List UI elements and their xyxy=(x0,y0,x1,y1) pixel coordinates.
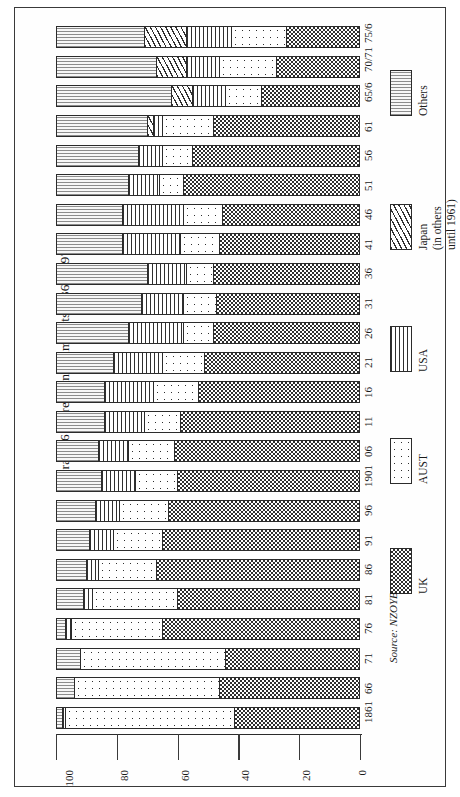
legend-note-line-1: (in others xyxy=(431,199,445,250)
source-note: Source: NZOYB xyxy=(387,592,399,663)
axis-tick-20 xyxy=(299,734,300,760)
bar-segment-aust xyxy=(181,234,220,254)
bar-track xyxy=(56,411,360,433)
bar-track xyxy=(56,145,360,167)
axis-tick-label-80: 80 xyxy=(118,770,130,781)
bar-track xyxy=(56,677,360,699)
legend-label-usa: USA xyxy=(417,349,431,372)
bar-segment-others xyxy=(57,323,129,343)
axis-line xyxy=(56,734,362,735)
bar-segment-others xyxy=(57,146,139,166)
axis-tick-0 xyxy=(360,734,361,760)
bar-track xyxy=(56,618,360,640)
bar-segment-uk xyxy=(163,619,359,639)
bar-segment-uk xyxy=(184,175,359,195)
bar-segment-uk xyxy=(220,678,359,698)
bar-segment-uk xyxy=(235,708,359,728)
legend-label-text: USA xyxy=(417,349,431,372)
bar-row xyxy=(56,233,360,255)
bar-track xyxy=(56,56,360,78)
bar-segment-usa xyxy=(90,530,114,550)
legend-label-text: Others xyxy=(417,85,431,116)
bar-track xyxy=(56,470,360,492)
bar-segment-aust xyxy=(184,294,217,314)
bar-row xyxy=(56,56,360,78)
chart-legend: UKAUSTUSAJapan(in othersuntil 1961)Other… xyxy=(371,8,460,788)
bar-segment-usa xyxy=(102,471,135,491)
bar-segment-uk xyxy=(226,649,359,669)
bar-segment-usa xyxy=(99,441,129,461)
bar-row xyxy=(56,85,360,107)
bar-segment-usa xyxy=(96,501,120,521)
bar-segment-others xyxy=(57,560,87,580)
bar-segment-others xyxy=(57,86,172,106)
bar-segment-others xyxy=(57,353,114,373)
bar-segment-uk xyxy=(217,294,359,314)
bar-segment-uk xyxy=(220,234,359,254)
bar-segment-aust xyxy=(163,116,214,136)
bar-track xyxy=(56,233,360,255)
axis-tick-40 xyxy=(238,734,239,760)
bar-segment-aust xyxy=(154,382,199,402)
bar-segment-usa xyxy=(187,27,232,47)
bar-row xyxy=(56,263,360,285)
value-axis: 020406080100 xyxy=(56,734,362,792)
bar-segment-uk xyxy=(175,441,359,461)
legend-label-text: AUST xyxy=(417,454,431,484)
bar-segment-uk xyxy=(169,501,359,521)
bar-track xyxy=(56,500,360,522)
bar-segment-uk xyxy=(199,382,359,402)
plot-area: 1861667176818691961901061116212631364146… xyxy=(56,22,360,732)
legend-swatch-japan xyxy=(390,204,412,250)
bar-segment-aust xyxy=(120,501,168,521)
bar-segment-aust xyxy=(184,323,214,343)
axis-tick-80 xyxy=(117,734,118,760)
bar-row xyxy=(56,204,360,226)
bar-row xyxy=(56,26,360,48)
bar-track xyxy=(56,381,360,403)
bar-segment-others xyxy=(57,678,75,698)
bar-segment-uk xyxy=(157,560,359,580)
bar-track xyxy=(56,648,360,670)
bar-segment-aust xyxy=(232,27,286,47)
bar-track xyxy=(56,263,360,285)
bar-track xyxy=(56,26,360,48)
bar-track xyxy=(56,559,360,581)
bar-track xyxy=(56,204,360,226)
legend-swatch-aust xyxy=(390,438,412,484)
bar-segment-japan xyxy=(157,57,187,77)
bar-segment-others xyxy=(57,471,102,491)
bar-row xyxy=(56,559,360,581)
bar-track xyxy=(56,322,360,344)
legend-swatch-uk xyxy=(390,548,412,594)
bar-segment-aust xyxy=(187,264,214,284)
bar-segment-aust xyxy=(163,146,193,166)
bar-segment-usa xyxy=(129,323,183,343)
bar-segment-usa xyxy=(105,382,153,402)
bar-segment-others xyxy=(57,57,157,77)
bar-segment-usa xyxy=(187,57,220,77)
bar-segment-others xyxy=(57,264,148,284)
bar-track xyxy=(56,588,360,610)
bar-segment-usa xyxy=(193,86,226,106)
bar-segment-uk xyxy=(181,412,359,432)
bar-segment-others xyxy=(57,501,96,521)
bar-segment-others xyxy=(57,589,84,609)
bar-segment-usa xyxy=(114,353,162,373)
axis-tick-60 xyxy=(178,734,179,760)
bar-track xyxy=(56,529,360,551)
legend-label-japan: Japan(in othersuntil 1961) xyxy=(417,199,458,250)
bar-row xyxy=(56,145,360,167)
bar-segment-usa xyxy=(148,264,187,284)
bar-segment-uk xyxy=(277,57,359,77)
bar-segment-uk xyxy=(178,471,359,491)
bar-row xyxy=(56,529,360,551)
bar-track xyxy=(56,707,360,729)
bar-segment-uk xyxy=(214,323,359,343)
bar-segment-uk xyxy=(178,589,359,609)
bar-segment-others xyxy=(57,234,123,254)
bar-segment-aust xyxy=(66,708,235,728)
bar-row xyxy=(56,677,360,699)
bar-segment-aust xyxy=(226,86,262,106)
axis-tick-label-20: 20 xyxy=(300,770,312,781)
